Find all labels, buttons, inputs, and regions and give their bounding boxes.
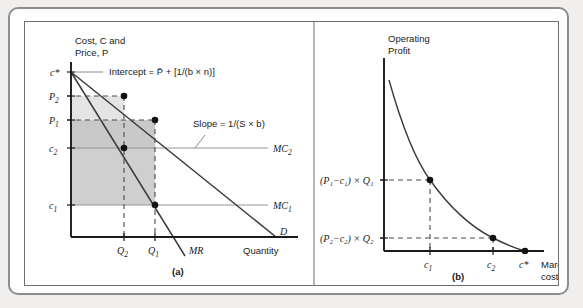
economics-figure: Cost, C and Price, P Intercept = P̄ + [1…: [25, 22, 558, 285]
curve-label-mc2: MC2: [272, 143, 292, 157]
shaded-region-profit-1b: [71, 148, 155, 205]
panel-a-y-axis-label-line1: Cost, C and: [75, 35, 125, 46]
panel-a-y-axis-label-line2: Price, P: [75, 47, 108, 58]
panel-b: Operating Profit (P₁−c₁) × Q₁ (P₂−c₂) × …: [320, 33, 558, 285]
figure-outer-frame: Cost, C and Price, P Intercept = P̄ + [1…: [8, 7, 569, 295]
x-tick-label-cstar: c*: [519, 259, 528, 270]
panel-b-x-axis-label-line1: Marginal: [541, 259, 558, 270]
x-tick-label-c1: c1: [424, 259, 432, 273]
point-p1-on-demand: [152, 117, 159, 124]
y-tick-label-c1: c1: [49, 200, 57, 214]
curve-label-mc1: MC1: [272, 200, 292, 214]
slope-leader-line: [195, 135, 205, 148]
point-p2-on-demand: [121, 93, 128, 100]
curve-label-d: D: [279, 226, 288, 237]
x-tick-label-q1: Q1: [148, 245, 159, 259]
y-tick-label-profit2: (P₂−c₂) × Q₂: [320, 233, 374, 245]
y-tick-label-p1: P1: [48, 115, 59, 129]
x-tick-label-c2: c2: [487, 259, 495, 273]
panel-b-y-axis-label-line2: Profit: [388, 45, 411, 56]
y-tick-label-cstar: c*: [50, 67, 59, 78]
figure-inner-frame: Cost, C and Price, P Intercept = P̄ + [1…: [24, 21, 559, 286]
point-mr-meets-mc1: [152, 202, 159, 209]
y-tick-label-p2: P2: [48, 91, 59, 105]
panel-a: Cost, C and Price, P Intercept = P̄ + [1…: [48, 35, 298, 277]
point-profit-at-c1: [427, 177, 434, 184]
point-profit-at-cstar: [522, 248, 529, 255]
operating-profit-curve: [389, 80, 525, 251]
panel-b-id: (b): [452, 271, 464, 282]
slope-annotation: Slope = 1/(S × b): [193, 118, 265, 129]
curve-label-mr: MR: [188, 245, 203, 256]
intercept-annotation: Intercept = P̄ + [1/(b × n)]: [109, 66, 215, 77]
point-profit-at-c2: [490, 235, 497, 242]
panel-a-x-axis-label: Quantity: [243, 245, 279, 256]
y-tick-label-c2: c2: [49, 143, 57, 157]
y-tick-label-profit1: (P₁−c₁) × Q₁: [320, 175, 373, 187]
panel-b-y-axis-label-line1: Operating: [388, 33, 430, 44]
x-tick-label-q2: Q2: [117, 245, 128, 259]
point-mr-meets-mc2: [121, 145, 128, 152]
panel-b-x-axis-label-line2: cost, ci: [541, 271, 558, 285]
panel-a-id: (a): [172, 266, 184, 277]
